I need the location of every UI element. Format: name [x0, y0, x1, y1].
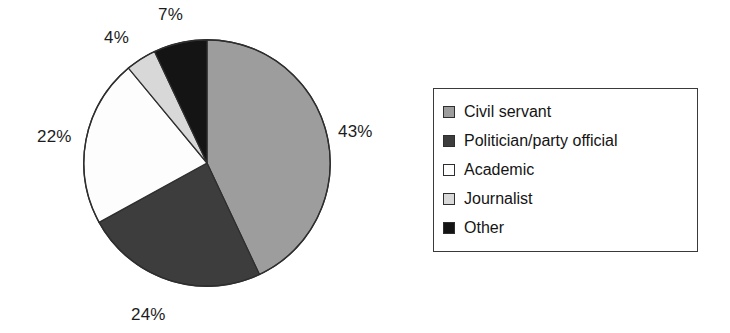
legend-item-label: Politician/party official: [464, 133, 618, 149]
legend-swatch-icon: [443, 222, 455, 234]
legend-item-label: Academic: [464, 162, 534, 178]
legend-item-academic: Academic: [443, 155, 697, 184]
pie-svg: [83, 39, 331, 287]
legend-swatch-icon: [443, 164, 455, 176]
legend-item-other: Other: [443, 213, 697, 242]
pie-chart-graphic: [83, 39, 331, 287]
pie-data-label-academic: 22%: [37, 128, 72, 145]
legend-item-politician: Politician/party official: [443, 126, 697, 155]
chart-legend: Civil servant Politician/party official …: [433, 88, 698, 252]
legend-swatch-icon: [443, 193, 455, 205]
legend-item-label: Journalist: [464, 191, 532, 207]
legend-item-label: Civil servant: [464, 104, 551, 120]
legend-swatch-icon: [443, 135, 455, 147]
legend-item-journalist: Journalist: [443, 184, 697, 213]
pie-slice-group: [84, 40, 330, 286]
pie-data-label-journalist: 4%: [104, 29, 129, 46]
legend-item-label: Other: [464, 220, 504, 236]
pie-data-label-politician: 24%: [131, 306, 166, 323]
legend-swatch-icon: [443, 106, 455, 118]
pie-data-label-other: 7%: [158, 6, 183, 23]
pie-data-label-civil-servant: 43%: [338, 123, 373, 140]
legend-item-civil-servant: Civil servant: [443, 97, 697, 126]
pie-chart-figure: 43% 24% 22% 4% 7% Civil servant Politici…: [0, 0, 730, 333]
